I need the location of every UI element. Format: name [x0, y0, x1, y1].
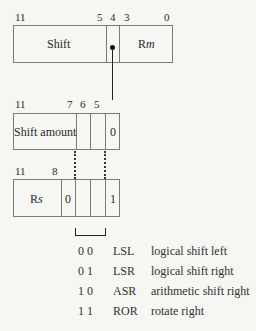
field-divider	[119, 26, 120, 62]
bit-label-5: 5	[97, 12, 103, 23]
legend-description: logical shift left	[151, 245, 227, 257]
legend-mnemonic: ASR	[113, 285, 136, 297]
bit-label-0: 0	[164, 12, 170, 23]
legend-description: logical shift right	[151, 265, 234, 277]
dotted-connector	[74, 151, 76, 179]
bit-label-6: 6	[80, 99, 86, 110]
bit-label-4: 4	[110, 12, 116, 23]
field-divider	[90, 180, 91, 216]
legend-code: 0 1	[78, 265, 93, 277]
rs-field-label: Rs	[30, 193, 43, 205]
field-divider	[75, 180, 76, 216]
legend-code: 0 0	[78, 245, 93, 257]
field-divider	[105, 114, 106, 149]
bit-label-7: 7	[67, 99, 73, 110]
bit4-value: 1	[110, 193, 116, 205]
shift-field-label: Shift	[47, 38, 70, 50]
legend-mnemonic: LSR	[113, 265, 135, 277]
field-divider	[106, 26, 107, 62]
bit-label-11: 11	[15, 99, 26, 110]
shift-amount-box: Shift amount 0	[13, 113, 120, 150]
bit7-value: 0	[65, 193, 71, 205]
legend-mnemonic: ROR	[113, 305, 138, 317]
legend-description: arithmetic shift right	[151, 285, 250, 297]
dotted-connector	[104, 151, 106, 179]
legend-description: rotate right	[151, 305, 204, 317]
bit-label-3: 3	[124, 12, 130, 23]
field-divider	[61, 180, 62, 216]
bit-label-5: 5	[94, 99, 100, 110]
legend-code: 1 0	[78, 285, 93, 297]
bit-label-8: 8	[52, 166, 58, 177]
rs-box: Rs 0 1	[13, 179, 120, 217]
instruction-field-box: Shift Rm	[13, 25, 173, 63]
shift-amount-label: Shift amount	[14, 126, 76, 138]
legend-code: 1 1	[78, 305, 93, 317]
bit4-connector-line	[112, 48, 113, 100]
bit-label-11: 11	[15, 12, 26, 23]
bit-label-11: 11	[15, 166, 26, 177]
bit4-value: 0	[110, 126, 116, 138]
legend-mnemonic: LSL	[113, 245, 134, 257]
shift-type-bracket	[75, 228, 106, 236]
field-divider	[90, 114, 91, 149]
field-divider	[105, 180, 106, 216]
rm-field-label: Rm	[138, 38, 155, 50]
